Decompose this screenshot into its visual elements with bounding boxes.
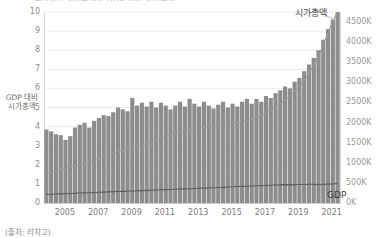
- source-note: (출처: 리치고): [5, 226, 51, 237]
- x-tick-label: 2005: [55, 208, 75, 217]
- x-tick-label: 2007: [88, 208, 108, 217]
- right-tick-label: 4000K: [346, 38, 372, 46]
- right-tick-label: 500K: [346, 179, 367, 187]
- left-tick-label: 5: [2, 104, 40, 112]
- left-tick-label: 7: [2, 65, 40, 73]
- gdp-annotation: GDP: [327, 190, 346, 200]
- x-tick-label: 2021: [321, 208, 341, 217]
- right-tick-label: 1500K: [346, 139, 372, 147]
- line-gdp: [46, 184, 337, 195]
- x-tick-label: 2009: [121, 208, 141, 217]
- right-tick-label: 3500K: [346, 58, 372, 66]
- left-tick-label: 3: [2, 142, 40, 150]
- chart-container: 주식시장 시가총액과 GDP 대비 시가총액 GDP 대비 시가총액 01234…: [0, 0, 389, 238]
- right-tick-label: 1000K: [346, 159, 372, 167]
- right-tick-label: 3000K: [346, 78, 372, 86]
- x-axis-ticks: 200520072009201120132015201720192021: [44, 208, 341, 220]
- right-axis-line: [340, 12, 341, 204]
- right-tick-label: 0K: [346, 199, 356, 207]
- left-tick-label: 0: [2, 199, 40, 207]
- x-tick-label: 2017: [255, 208, 275, 217]
- x-tick-label: 2011: [155, 208, 175, 217]
- left-tick-label: 1: [2, 180, 40, 188]
- x-tick-label: 2019: [288, 208, 308, 217]
- chart-title-cropped: 주식시장 시가총액과 GDP 대비 시가총액: [34, 0, 175, 1]
- line-series: [44, 12, 340, 203]
- line-market-cap: [46, 12, 337, 173]
- bottom-axis-line: [44, 203, 341, 204]
- right-tick-label: 2000K: [346, 119, 372, 127]
- left-tick-label: 2: [2, 161, 40, 169]
- market-cap-annotation: 시가총액: [295, 6, 327, 19]
- left-axis-ticks: 012345678910: [0, 12, 40, 204]
- left-tick-label: 8: [2, 46, 40, 54]
- right-axis-ticks: 0K500K1000K1500K2000K2500K3000K3500K4000…: [346, 12, 389, 204]
- left-tick-label: 6: [2, 84, 40, 92]
- plot-area: [44, 12, 340, 203]
- right-tick-label: 4500K: [346, 18, 372, 26]
- x-tick-label: 2013: [188, 208, 208, 217]
- x-tick-label: 2015: [221, 208, 241, 217]
- left-tick-label: 10: [2, 8, 40, 16]
- right-tick-label: 2500K: [346, 98, 372, 106]
- left-tick-label: 4: [2, 123, 40, 131]
- left-tick-label: 9: [2, 27, 40, 35]
